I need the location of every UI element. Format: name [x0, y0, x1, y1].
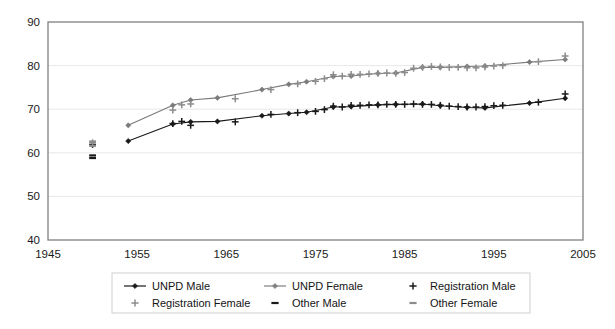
y-tick-label: 40	[27, 234, 40, 246]
legend-label: Registration Female	[152, 297, 250, 309]
x-tick-label: 1955	[124, 248, 150, 260]
x-tick-label: 2005	[570, 248, 596, 260]
series-registration-female	[89, 53, 568, 147]
legend-label: UNPD Male	[152, 280, 210, 292]
series-unpd-male	[126, 96, 568, 144]
marker-diamond	[259, 113, 264, 118]
y-tick-label: 50	[27, 190, 40, 202]
chart-legend: UNPD MaleUNPD FemaleRegistration MaleReg…	[112, 273, 530, 313]
legend-label: Other Female	[430, 297, 497, 309]
marker-diamond	[126, 123, 131, 128]
marker-diamond	[527, 60, 532, 65]
legend-label: Registration Male	[430, 280, 516, 292]
marker-diamond	[304, 79, 309, 84]
plot-area-border	[48, 22, 583, 240]
y-tick-label: 70	[27, 103, 40, 115]
marker-diamond	[259, 87, 264, 92]
marker-diamond	[527, 100, 532, 105]
gridlines	[48, 66, 583, 197]
marker-diamond	[126, 138, 131, 143]
y-tick-label: 60	[27, 147, 40, 159]
y-tick-label: 90	[27, 16, 40, 28]
plot-border-rect	[48, 22, 583, 240]
x-tick-label: 1965	[214, 248, 240, 260]
x-tick-label: 1985	[392, 248, 418, 260]
marker-diamond	[215, 119, 220, 124]
series-line	[128, 59, 565, 125]
legend-label: Other Male	[292, 297, 346, 309]
marker-diamond	[286, 82, 291, 87]
y-axis-tick-labels: 405060708090	[27, 16, 40, 246]
x-tick-label: 1995	[481, 248, 507, 260]
x-axis-tick-labels: 1945195519651975198519952005	[35, 248, 596, 260]
data-series-layer	[89, 53, 568, 158]
series-unpd-female	[126, 57, 568, 128]
x-tick-label: 1945	[35, 248, 61, 260]
legend-label: UNPD Female	[292, 280, 363, 292]
series-other-male	[89, 155, 96, 158]
life-expectancy-line-chart: 405060708090 194519551965197519851995200…	[0, 0, 615, 329]
marker-diamond	[286, 111, 291, 116]
x-tick-label: 1975	[303, 248, 329, 260]
marker-diamond	[304, 110, 309, 115]
marker-diamond	[215, 95, 220, 100]
series-registration-male	[89, 91, 568, 148]
chart-figure: 405060708090 194519551965197519851995200…	[0, 0, 615, 329]
y-tick-label: 80	[27, 60, 40, 72]
